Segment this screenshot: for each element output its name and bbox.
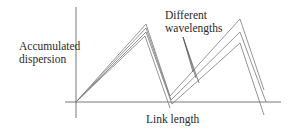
wavelength-trace-4 <box>76 36 170 108</box>
annotation-label-line2: wavelengths <box>165 22 223 35</box>
annotation-label-line1: Different <box>165 9 208 21</box>
dispersion-diagram: Accumulated dispersion Different wavelen… <box>0 0 296 135</box>
pointer-line-3 <box>183 37 199 83</box>
y-axis-label-line2: dispersion <box>19 53 67 66</box>
wavelength-trace-3 <box>76 32 264 115</box>
annotation-pointers <box>183 37 199 83</box>
wavelength-trace-2 <box>76 28 266 102</box>
x-axis-label: Link length <box>146 113 200 126</box>
y-axis-label-line1: Accumulated <box>19 40 81 52</box>
